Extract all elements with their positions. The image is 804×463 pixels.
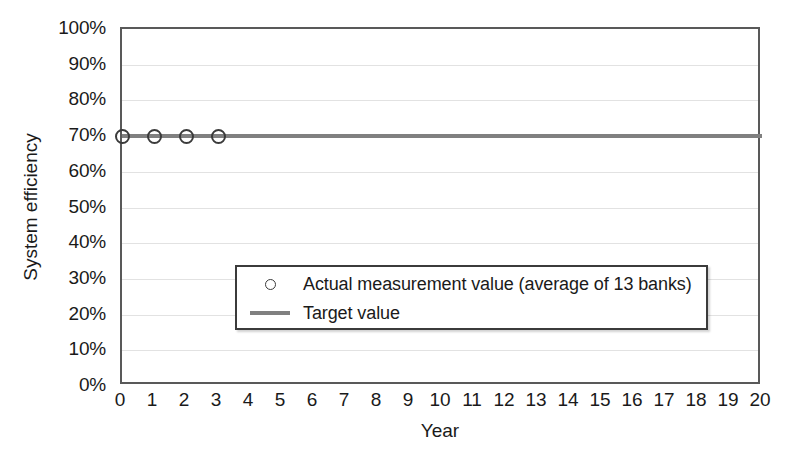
y-tick-label: 20% xyxy=(69,303,106,322)
data-point-marker xyxy=(211,129,226,144)
gridline xyxy=(122,243,758,244)
data-point-marker xyxy=(147,129,162,144)
x-tick-label: 19 xyxy=(717,389,738,411)
x-tick-label: 10 xyxy=(429,389,450,411)
x-tick-label: 1 xyxy=(147,389,158,411)
y-tick-label: 100% xyxy=(58,18,106,37)
x-tick-label: 0 xyxy=(115,389,126,411)
x-tick-label: 2 xyxy=(179,389,190,411)
y-tick-label: 50% xyxy=(69,196,106,215)
chart-figure: 0%10%20%30%40%50%60%70%80%90%100% System… xyxy=(0,0,804,463)
y-tick-label: 30% xyxy=(69,267,106,286)
gridline xyxy=(122,172,758,173)
open-circle-marker-icon xyxy=(237,279,303,290)
x-tick-label: 17 xyxy=(653,389,674,411)
data-point-marker xyxy=(179,129,194,144)
x-axis-title: Year xyxy=(120,420,760,442)
y-axis-title: System efficiency xyxy=(20,77,42,337)
legend-entry-target: Target value xyxy=(237,298,706,328)
x-axis-tick-labels: 01234567891011121314151617181920 xyxy=(120,389,760,415)
x-tick-label: 18 xyxy=(685,389,706,411)
x-tick-label: 14 xyxy=(557,389,578,411)
x-tick-label: 3 xyxy=(211,389,222,411)
x-tick-label: 9 xyxy=(403,389,414,411)
y-tick-label: 40% xyxy=(69,232,106,251)
x-tick-label: 11 xyxy=(462,389,482,411)
x-tick-label: 6 xyxy=(307,389,318,411)
y-axis-tick-labels: 0%10%20%30%40%50%60%70%80%90%100% xyxy=(40,27,114,384)
x-tick-label: 20 xyxy=(749,389,770,411)
x-tick-label: 5 xyxy=(275,389,286,411)
legend-entry-actual: Actual measurement value (average of 13 … xyxy=(237,269,706,299)
y-tick-label: 10% xyxy=(69,339,106,358)
solid-line-swatch-icon xyxy=(237,311,303,315)
x-tick-label: 4 xyxy=(243,389,254,411)
x-tick-label: 12 xyxy=(493,389,514,411)
x-tick-label: 16 xyxy=(621,389,642,411)
y-tick-label: 60% xyxy=(69,160,106,179)
x-tick-label: 7 xyxy=(339,389,350,411)
gridline xyxy=(122,100,758,101)
x-tick-label: 13 xyxy=(525,389,546,411)
gridline xyxy=(122,350,758,351)
gridline xyxy=(122,208,758,209)
data-point-marker xyxy=(115,129,130,144)
y-tick-label: 0% xyxy=(79,375,106,394)
legend-label-target: Target value xyxy=(303,303,400,324)
plot-area: Actual measurement value (average of 13 … xyxy=(120,27,760,384)
x-tick-label: 8 xyxy=(371,389,382,411)
y-tick-label: 80% xyxy=(69,89,106,108)
legend-label-actual: Actual measurement value (average of 13 … xyxy=(303,274,692,295)
gridline xyxy=(122,65,758,66)
y-tick-label: 70% xyxy=(69,125,106,144)
x-tick-label: 15 xyxy=(589,389,610,411)
chart-legend: Actual measurement value (average of 13 … xyxy=(235,265,708,330)
y-tick-label: 90% xyxy=(69,53,106,72)
